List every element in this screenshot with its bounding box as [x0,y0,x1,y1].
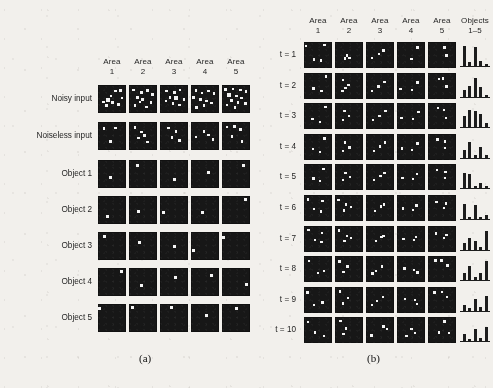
dot [110,95,113,98]
dot [226,104,229,107]
dot [319,121,321,123]
dot [143,134,146,137]
dot [98,307,101,310]
column-header-line2: 4 [188,67,222,77]
bar-object-3 [474,277,477,280]
bar-object-3 [474,155,477,158]
bar-object-2 [468,217,471,219]
column-header-5: Area5 [219,57,253,76]
dot [400,117,403,120]
tile-r3-c4 [191,160,219,188]
dot [244,198,247,201]
dot [320,210,323,213]
bar-chart-t6 [460,195,490,221]
tile-t8-c2 [335,256,363,282]
tile-r4-c1 [98,196,126,224]
bar-object-4 [479,217,482,219]
dot [377,85,380,88]
tile-r2-c4 [191,122,219,150]
bar-object-4 [479,247,482,250]
tile-r2-c3 [160,122,188,150]
dot [231,135,234,138]
dot [171,136,174,139]
tile-r5-c3 [160,232,188,260]
dot [121,97,124,100]
tile-t9-c2 [335,287,363,313]
dot [374,210,376,212]
dot [167,127,170,130]
dot [321,200,324,203]
tile-r6-c4 [191,268,219,296]
dot [141,98,144,101]
dot [446,264,449,267]
dot [322,168,325,171]
dot [348,115,351,118]
tile-t9-c4 [397,287,425,313]
dot [105,104,108,107]
dot [376,300,378,302]
dot [344,172,347,175]
bar-object-2 [468,62,471,66]
panel-a: Area1Area2Area3Area4Area5Noisy inputNois… [0,0,256,388]
dot [338,229,341,232]
bar-object-5 [485,215,488,219]
column-header-line1: Area [332,16,366,26]
dot [342,119,344,121]
tile-t6-c5 [428,195,456,221]
column-header-1: Area1 [301,16,335,35]
tile-t3-c4 [397,103,425,129]
dot [435,232,438,235]
bar-chart-t5 [460,164,490,190]
tile-t10-c5 [428,317,456,343]
dot [119,89,122,92]
dot [150,101,153,104]
bar-object-3 [474,241,477,250]
dot [311,118,314,121]
bar-object-5 [485,64,488,66]
column-header-line1: Objects [454,16,493,26]
dot [373,150,375,152]
dot [436,169,439,172]
dot [134,104,137,107]
dot [212,138,215,141]
dot [378,115,381,118]
dot [320,59,323,62]
dot [234,106,237,109]
dot [109,140,112,143]
dot [146,89,149,92]
tile-r2-c1 [98,122,126,150]
bar-object-4 [479,273,482,280]
dot [103,235,106,238]
dot [413,269,415,271]
dot [435,201,438,204]
dot [437,107,440,110]
dot [347,84,350,87]
dot [183,98,186,101]
tile-r7-c2 [129,304,157,332]
dot [314,331,317,334]
dot [312,87,315,90]
column-header-line2: 3 [363,26,397,36]
column-header-line1: Area [394,16,428,26]
dot [235,307,238,310]
dot [381,265,384,268]
dot [415,204,418,207]
tile-r7-c4 [191,304,219,332]
dot [348,57,351,60]
bar-object-4 [479,114,482,127]
dot [305,45,307,47]
dot [195,89,198,92]
tile-t8-c5 [428,256,456,282]
tile-t4-c2 [335,134,363,160]
dot [239,89,242,92]
dot [342,79,344,81]
dot [136,96,139,99]
dot [346,54,349,57]
bar-object-2 [468,339,471,341]
dot [346,235,349,238]
bar-chart-t1 [460,42,490,68]
dot [132,89,135,92]
dot [373,179,375,181]
dot [443,320,446,323]
dot [403,267,406,270]
